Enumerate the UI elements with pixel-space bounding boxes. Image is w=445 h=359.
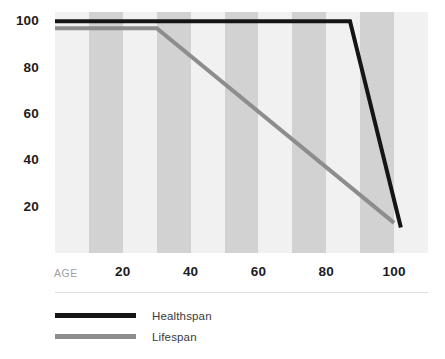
legend-label: Healthspan — [152, 310, 212, 322]
chart-legend: HealthspanLifespan — [55, 305, 395, 347]
legend-swatch-healthspan — [55, 313, 136, 318]
x-tick-label: 40 — [161, 264, 221, 279]
y-tick-label: 100 — [0, 14, 39, 28]
legend-item[interactable]: Lifespan — [55, 326, 395, 347]
legend-label: Lifespan — [152, 331, 197, 343]
y-tick-label: 80 — [0, 61, 39, 75]
y-tick-label: 20 — [0, 200, 39, 214]
legend-item[interactable]: Healthspan — [55, 305, 395, 326]
series-line-lifespan — [55, 28, 394, 223]
y-tick-label: 60 — [0, 107, 39, 121]
legend-divider — [55, 292, 428, 293]
x-tick-label: 100 — [364, 264, 424, 279]
legend-swatch-lifespan — [55, 334, 136, 339]
series-lines — [55, 12, 428, 253]
x-tick-label: 80 — [296, 264, 356, 279]
x-tick-label: 20 — [93, 264, 153, 279]
chart-container: 10080604020 AGE20406080100 HealthspanLif… — [0, 0, 445, 359]
y-tick-label: 40 — [0, 153, 39, 167]
x-tick-label: 60 — [228, 264, 288, 279]
x-axis-name: AGE — [36, 266, 96, 281]
plot-area — [55, 12, 428, 253]
series-line-healthspan — [55, 21, 401, 227]
